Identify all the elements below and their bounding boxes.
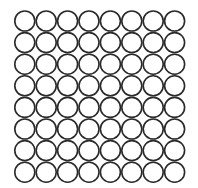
circle-r4-c3 (58, 76, 78, 96)
circle-r4-c7 (143, 76, 163, 96)
circle-r7-c4 (79, 141, 99, 161)
circle-r3-c2 (36, 54, 56, 74)
circle-r7-c1 (15, 141, 35, 161)
circle-r2-c7 (143, 33, 163, 53)
circle-r2-c4 (79, 33, 99, 53)
circle-r2-c2 (36, 33, 56, 53)
circle-r8-c7 (143, 162, 163, 182)
circle-r5-c8 (165, 97, 185, 117)
circle-r6-c8 (165, 119, 185, 139)
circle-r8-c1 (15, 162, 35, 182)
circle-r8-c2 (36, 162, 56, 182)
circle-r5-c7 (143, 97, 163, 117)
circle-r4-c1 (15, 76, 35, 96)
circle-r1-c2 (36, 11, 56, 31)
circle-r1-c7 (143, 11, 163, 31)
circle-r5-c2 (36, 97, 56, 117)
circle-r3-c1 (15, 54, 35, 74)
circle-r7-c6 (122, 141, 142, 161)
circle-r6-c5 (100, 119, 120, 139)
circle-r3-c7 (143, 54, 163, 74)
circle-r8-c6 (122, 162, 142, 182)
circle-r6-c7 (143, 119, 163, 139)
circle-r5-c4 (79, 97, 99, 117)
circle-r3-c5 (100, 54, 120, 74)
circle-r6-c6 (122, 119, 142, 139)
circle-r7-c7 (143, 141, 163, 161)
circle-r5-c1 (15, 97, 35, 117)
circle-r7-c3 (58, 141, 78, 161)
circle-r1-c4 (79, 11, 99, 31)
circle-r1-c8 (165, 11, 185, 31)
circle-r6-c2 (36, 119, 56, 139)
circle-r2-c3 (58, 33, 78, 53)
circle-r6-c1 (15, 119, 35, 139)
circle-grid (0, 0, 198, 188)
circle-r3-c3 (58, 54, 78, 74)
circle-r6-c4 (79, 119, 99, 139)
circle-r8-c3 (58, 162, 78, 182)
circle-r1-c1 (15, 11, 35, 31)
circle-r7-c5 (100, 141, 120, 161)
circle-r8-c8 (165, 162, 185, 182)
circle-r1-c3 (58, 11, 78, 31)
circle-r1-c5 (100, 11, 120, 31)
circle-r8-c5 (100, 162, 120, 182)
circle-r8-c4 (79, 162, 99, 182)
circle-r2-c6 (122, 33, 142, 53)
circle-r7-c2 (36, 141, 56, 161)
circle-r2-c5 (100, 33, 120, 53)
circle-r7-c8 (165, 141, 185, 161)
circle-r5-c6 (122, 97, 142, 117)
circle-r3-c6 (122, 54, 142, 74)
circle-r2-c1 (15, 33, 35, 53)
circle-r5-c3 (58, 97, 78, 117)
circle-r6-c3 (58, 119, 78, 139)
circle-r4-c5 (100, 76, 120, 96)
circle-r4-c8 (165, 76, 185, 96)
circle-r2-c8 (165, 33, 185, 53)
circle-r1-c6 (122, 11, 142, 31)
circle-r4-c6 (122, 76, 142, 96)
circle-r4-c2 (36, 76, 56, 96)
circle-r4-c4 (79, 76, 99, 96)
circle-r3-c4 (79, 54, 99, 74)
circle-r3-c8 (165, 54, 185, 74)
circle-r5-c5 (100, 97, 120, 117)
